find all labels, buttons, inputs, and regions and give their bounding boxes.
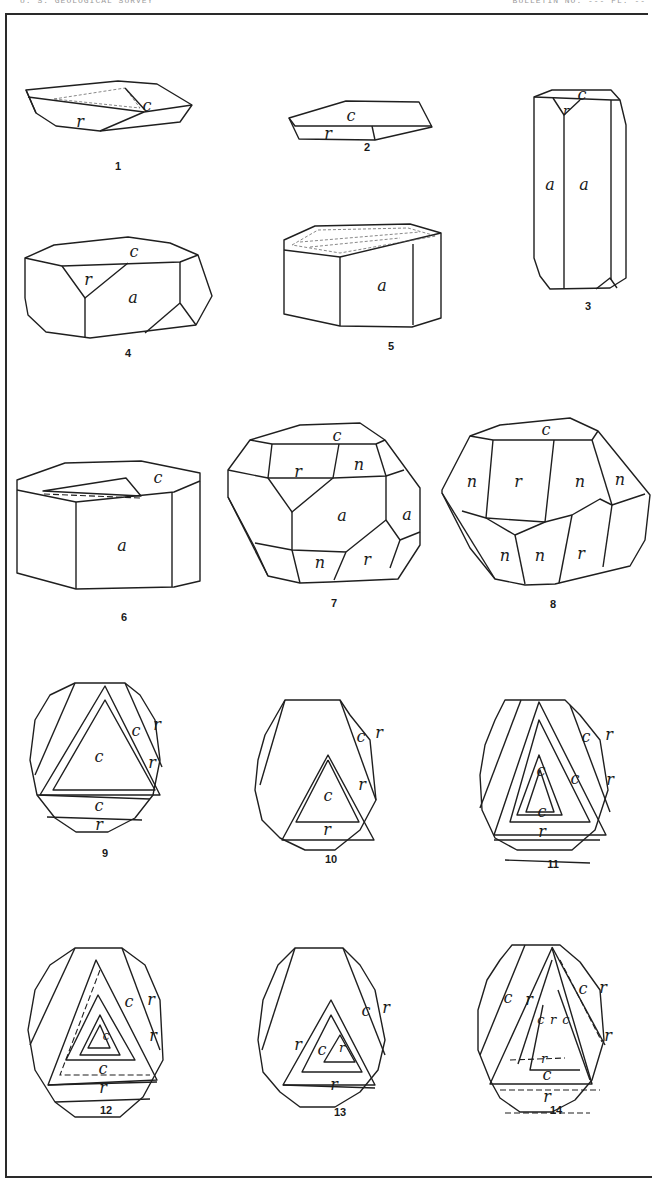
fig14-face-c-center: c — [537, 1013, 544, 1026]
figure-2-drawing — [289, 101, 432, 140]
fig2-face-c: c — [347, 108, 356, 124]
fig6-face-a: a — [117, 538, 127, 554]
fig13-face-r-top: r — [382, 1000, 390, 1016]
fig12-face-r-band: r — [99, 1080, 107, 1096]
fig4-face-r: r — [84, 272, 92, 288]
fig7-face-c: c — [333, 428, 342, 444]
figure-number-13: 13 — [334, 1106, 346, 1118]
fig14-face-r-left: r — [525, 992, 533, 1008]
fig7-face-a-right: a — [402, 507, 412, 523]
figure-number-6: 6 — [121, 611, 127, 623]
fig12-face-r-mid: r — [149, 1028, 157, 1044]
figure-number-9: 9 — [102, 847, 108, 859]
fig11-face-c-band: c — [538, 804, 547, 820]
fig9-face-c-band: c — [95, 798, 104, 814]
fig4-face-c: c — [130, 244, 139, 260]
figure-4-drawing — [25, 237, 212, 338]
fig6-face-c: c — [154, 470, 163, 486]
fig14-face-c-left: c — [504, 990, 513, 1006]
fig14-face-r-hidden: r — [541, 1052, 547, 1065]
figure-12-drawing — [28, 948, 163, 1117]
fig9-face-c-center: c — [95, 749, 104, 765]
fig11-face-c-center: c — [537, 763, 546, 779]
figure-number-7: 7 — [331, 597, 337, 609]
figure-number-4: 4 — [125, 347, 131, 359]
fig8-face-r-bottom: r — [577, 546, 585, 562]
fig14-face-c-inner: c — [562, 1013, 569, 1026]
fig3-face-c: c — [578, 87, 587, 103]
fig14-face-c-band: c — [543, 1067, 552, 1083]
fig12-face-c-side: c — [125, 994, 134, 1010]
figure-number-12: 12 — [100, 1104, 112, 1116]
figure-1-drawing — [26, 81, 192, 131]
figure-6-drawing — [17, 461, 200, 589]
fig8-face-n-right: n — [615, 472, 625, 488]
fig1-face-c: c — [143, 98, 152, 114]
fig12-face-c-center: c — [103, 1030, 110, 1042]
fig4-face-a: a — [128, 290, 138, 306]
fig14-face-r-center: r — [550, 1013, 556, 1026]
fig11-face-r-top: r — [605, 727, 613, 743]
figure-number-14: 14 — [550, 1104, 562, 1116]
fig9-face-r-band: r — [95, 817, 103, 833]
fig13-face-c-side: c — [362, 1003, 371, 1019]
figure-number-1: 1 — [115, 160, 121, 172]
fig2-face-r: r — [324, 126, 332, 142]
fig5-face-a: a — [377, 278, 387, 294]
fig13-face-c-center: c — [318, 1042, 327, 1058]
fig9-face-c-side: c — [132, 723, 141, 739]
fig12-face-r-top: r — [147, 992, 155, 1008]
figure-number-8: 8 — [550, 598, 556, 610]
fig7-face-n-top: n — [354, 457, 364, 473]
fig11-face-c-side: c — [582, 729, 591, 745]
fig10-face-r-mid: r — [358, 777, 366, 793]
fig11-face-r-band: r — [538, 824, 546, 840]
fig3-face-r: r — [563, 104, 569, 117]
fig13-face-r-left: r — [294, 1037, 302, 1053]
fig10-face-r-top: r — [375, 725, 383, 741]
fig14-face-r-top: r — [599, 980, 607, 996]
figure-8-drawing — [442, 418, 650, 585]
fig11-face-c-inner: c — [571, 771, 580, 787]
fig13-face-r-inner: r — [339, 1041, 345, 1054]
fig7-face-n-bottom: n — [315, 555, 325, 571]
fig7-face-r-bottom: r — [363, 552, 371, 568]
fig8-face-n-left: n — [467, 474, 477, 490]
figure-number-10: 10 — [325, 853, 337, 865]
figure-number-2: 2 — [364, 141, 370, 153]
fig8-face-r-top: r — [514, 474, 522, 490]
fig8-face-n-bottom-center: n — [535, 548, 545, 564]
fig14-face-c-right: c — [579, 981, 588, 997]
fig8-face-c: c — [542, 422, 551, 438]
fig9-face-r-top: r — [153, 717, 161, 733]
fig9-face-r-mid: r — [148, 755, 156, 771]
fig7-face-r: r — [294, 464, 302, 480]
fig13-face-r-band: r — [330, 1077, 338, 1093]
figure-number-11: 11 — [547, 858, 559, 870]
fig11-face-r-mid: r — [606, 772, 614, 788]
figure-number-3: 3 — [585, 300, 591, 312]
fig10-face-c-side: c — [357, 729, 366, 745]
fig8-face-n-bottom-left: n — [500, 548, 510, 564]
fig8-face-n-center: n — [575, 474, 585, 490]
fig1-face-r: r — [76, 114, 84, 130]
figure-13-drawing — [258, 948, 385, 1107]
fig12-face-c-band: c — [99, 1061, 108, 1077]
figure-5-drawing — [284, 224, 441, 327]
fig3-face-a-right: a — [579, 177, 589, 193]
fig14-face-r-band: r — [543, 1089, 551, 1105]
figure-number-5: 5 — [388, 340, 394, 352]
fig14-face-r-mid: r — [604, 1028, 612, 1044]
figure-14-drawing — [478, 945, 605, 1113]
fig3-face-a-left: a — [545, 177, 555, 193]
fig10-face-c-center: c — [324, 788, 333, 804]
fig7-face-a-center: a — [337, 508, 347, 524]
fig10-face-r-band: r — [323, 822, 331, 838]
